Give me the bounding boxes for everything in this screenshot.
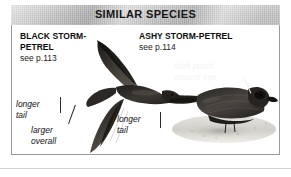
similar-species-header-bar: SIMILAR SPECIES xyxy=(11,5,280,25)
callout-larger-overall: larger overall xyxy=(31,125,56,146)
leader-line-longer-tail-black xyxy=(60,97,61,113)
comparison-panel: BLACK STORM- PETREL see p.113 ASHY STORM… xyxy=(11,25,280,155)
species-name: ASHY STORM-PETREL xyxy=(139,31,233,42)
page-title: SIMILAR SPECIES xyxy=(11,8,280,20)
similar-species-figure: SIMILAR SPECIES xyxy=(0,0,291,177)
species-page-reference[interactable]: see p.113 xyxy=(20,53,86,64)
leader-line-longer-tail-ashy xyxy=(160,112,161,128)
species-page-reference[interactable]: see p.114 xyxy=(139,42,233,53)
species-name: BLACK STORM- PETREL xyxy=(20,31,86,52)
callout-longer-tail-ashy: longer tail xyxy=(117,114,141,135)
species-label-black-storm-petrel: BLACK STORM- PETREL see p.113 xyxy=(20,31,86,64)
species-label-ashy-storm-petrel: ASHY STORM-PETREL see p.114 xyxy=(139,31,233,53)
callout-dark-patch-around-eye: dark patch around eye xyxy=(174,61,217,82)
footer-divider xyxy=(0,168,291,169)
callout-longer-tail-black: longer tail xyxy=(16,99,40,120)
